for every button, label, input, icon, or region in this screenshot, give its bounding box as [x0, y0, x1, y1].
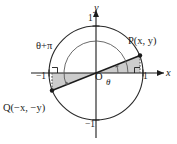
label-x-axis: x: [166, 68, 171, 79]
label-angle-theta-plus-pi: θ+π: [36, 41, 52, 52]
label-point-p: P(x, y): [128, 36, 157, 47]
label-angle-theta: θ: [106, 78, 110, 87]
label-tick-x-negative: −1: [36, 72, 46, 82]
right-angle-mark-quadrant-iii: [52, 68, 58, 74]
point-marker-p: [138, 53, 142, 57]
point-marker-q: [50, 88, 54, 92]
label-point-q: Q(−x, −y): [3, 103, 45, 114]
label-tick-x-positive: 1: [143, 72, 148, 82]
label-tick-y-negative: −1: [85, 120, 95, 130]
label-origin: O: [95, 72, 103, 83]
unit-circle-figure: P(x, y) Q(−x, −y) θ+π O θ x y 1 −1 1 −1: [0, 0, 177, 144]
x-axis-arrowhead: [157, 70, 164, 76]
label-y-axis: y: [94, 3, 99, 14]
label-tick-y-positive: 1: [88, 14, 93, 24]
